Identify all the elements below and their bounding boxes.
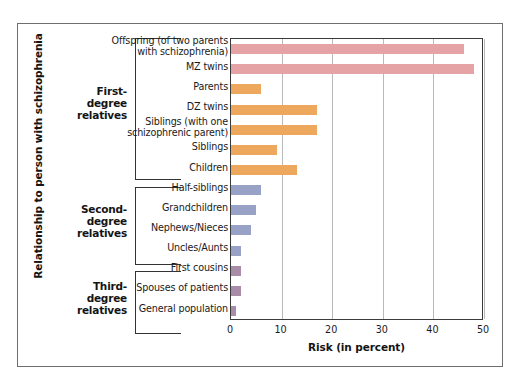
category-label-line1: Children — [100, 163, 228, 174]
bar — [231, 145, 277, 155]
category-label: Half-siblings — [100, 183, 228, 194]
category-label: Siblings — [100, 142, 228, 153]
category-label: Grandchildren — [100, 203, 228, 214]
category-label: Nephews/Nieces — [100, 223, 228, 234]
bar — [231, 84, 261, 94]
x-tick-label: 20 — [325, 324, 337, 335]
gridline — [383, 39, 384, 319]
bar — [231, 266, 241, 276]
bar — [231, 185, 261, 195]
bar — [231, 64, 474, 74]
category-label-line1: Siblings — [100, 142, 228, 153]
category-label-line1: Half-siblings — [100, 183, 228, 194]
gridline — [433, 39, 434, 319]
category-label: Offspring (of two parentswith schizophre… — [100, 36, 228, 57]
bar — [231, 225, 251, 235]
x-tick-label: 50 — [477, 324, 489, 335]
category-label-line1: General population — [100, 304, 228, 315]
category-label-line1: Spouses of patients — [100, 283, 228, 294]
bar — [231, 246, 241, 256]
category-label-line1: Grandchildren — [100, 203, 228, 214]
bar — [231, 165, 297, 175]
x-tick-label: 0 — [227, 324, 233, 335]
gridline — [484, 39, 485, 319]
bar — [231, 286, 241, 296]
category-label: Parents — [100, 82, 228, 93]
bar — [231, 205, 256, 215]
category-label-line1: Nephews/Nieces — [100, 223, 228, 234]
chart-figure: Relationship to person with schizophreni… — [0, 0, 519, 388]
x-tick-label: 10 — [274, 324, 286, 335]
bar — [231, 44, 464, 54]
category-label-line1: DZ twins — [100, 102, 228, 113]
y-axis-title: Relationship to person with schizophreni… — [32, 26, 44, 286]
x-tick-label: 30 — [376, 324, 388, 335]
category-label: Spouses of patients — [100, 283, 228, 294]
category-label-line1: MZ twins — [100, 62, 228, 73]
category-label: General population — [100, 304, 228, 315]
plot-area — [230, 38, 483, 320]
category-label-line2: schizophrenic parent) — [100, 128, 228, 139]
category-label: Uncles/Aunts — [100, 243, 228, 254]
bar — [231, 306, 236, 316]
category-label: Children — [100, 163, 228, 174]
gridline — [332, 39, 333, 319]
category-label: MZ twins — [100, 62, 228, 73]
category-label-line1: Uncles/Aunts — [100, 243, 228, 254]
category-label-line1: Parents — [100, 82, 228, 93]
category-label: First cousins — [100, 263, 228, 274]
gridline — [282, 39, 283, 319]
category-label-line1: First cousins — [100, 263, 228, 274]
x-axis-title: Risk (in percent) — [230, 341, 483, 353]
bar — [231, 105, 317, 115]
x-tick-label: 40 — [426, 324, 438, 335]
bar — [231, 125, 317, 135]
category-axis-labels: Offspring (of two parentswith schizophre… — [100, 23, 228, 367]
category-label: Siblings (with oneschizophrenic parent) — [100, 117, 228, 138]
category-label-line2: with schizophrenia) — [100, 47, 228, 58]
category-label: DZ twins — [100, 102, 228, 113]
